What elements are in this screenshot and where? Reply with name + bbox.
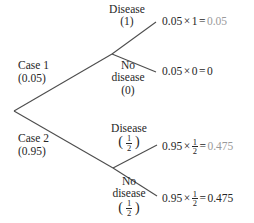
case1-disease-line1: Disease	[104, 3, 150, 15]
outcome-2-result: 0	[207, 65, 213, 77]
outcome-expression-3: 0.95×12=0.475	[162, 138, 233, 156]
case2-no-disease-fraction: ( 1 2 )	[106, 200, 152, 218]
multiply-icon: ×	[182, 15, 192, 27]
outcome-2-left-operand: 0.05	[162, 65, 182, 77]
equals-icon: =	[198, 192, 208, 204]
outcome-4-result: 0.475	[207, 192, 233, 204]
probability-tree-figure: Case 1 (0.05) Case 2 (0.95) Disease (1) …	[0, 0, 254, 223]
fraction-numerator: 1	[192, 138, 198, 147]
outcome-3-left-operand: 0.95	[162, 140, 182, 152]
outcome-4-left-operand: 0.95	[162, 192, 182, 204]
fraction-denominator: 2	[126, 208, 132, 218]
fraction-denominator: 2	[192, 198, 198, 208]
case1-no-disease-line2: disease	[106, 71, 150, 83]
multiply-icon: ×	[182, 140, 192, 152]
case1-no-disease-label: No disease (0)	[106, 59, 150, 96]
case-1-name: Case 1	[18, 59, 49, 72]
paren-open: (	[118, 134, 123, 149]
outcome-expression-4: 0.95×12=0.475	[162, 190, 233, 208]
fraction-numerator: 1	[126, 199, 132, 208]
fraction-denominator: 2	[192, 146, 198, 156]
multiply-icon: ×	[182, 65, 192, 77]
fraction-numerator: 1	[192, 190, 198, 199]
fraction-half: 1 2	[126, 199, 132, 217]
equals-icon: =	[198, 140, 208, 152]
case1-no-disease-line1: No	[106, 59, 150, 71]
case2-disease-fraction: ( 1 2 )	[105, 134, 153, 152]
equals-icon: =	[197, 65, 207, 77]
paren-open: (	[118, 200, 123, 215]
case1-disease-line2: (1)	[104, 15, 150, 27]
outcome-1-result: 0.05	[207, 15, 227, 27]
case1-no-disease-line3: (0)	[106, 84, 150, 96]
case-2-label: Case 2 (0.95)	[18, 132, 49, 157]
outcome-3-result: 0.475	[207, 140, 233, 152]
fraction-half: 1 2	[126, 134, 132, 152]
outcome-4-right-operand-fraction: 12	[192, 190, 198, 208]
outcome-1-left-operand: 0.05	[162, 15, 182, 27]
case1-disease-label: Disease (1)	[104, 3, 150, 28]
outcome-expression-2: 0.05×0=0	[162, 66, 213, 78]
case-2-name: Case 2	[18, 132, 49, 145]
case2-no-disease-line1: No	[106, 175, 152, 187]
case-1-label: Case 1 (0.05)	[18, 59, 49, 84]
case-1-probability: (0.05)	[18, 72, 49, 85]
case2-no-disease-label: No disease ( 1 2 )	[106, 175, 152, 218]
outcome-3-right-operand-fraction: 12	[192, 138, 198, 156]
outcome-expression-1: 0.05×1=0.05	[162, 16, 227, 28]
paren-close: )	[135, 200, 140, 215]
equals-icon: =	[197, 15, 207, 27]
fraction-numerator: 1	[126, 134, 132, 143]
multiply-icon: ×	[182, 192, 192, 204]
paren-close: )	[135, 134, 140, 149]
case2-disease-label: Disease ( 1 2 )	[105, 122, 153, 153]
case-2-probability: (0.95)	[18, 145, 49, 158]
fraction-denominator: 2	[126, 143, 132, 153]
